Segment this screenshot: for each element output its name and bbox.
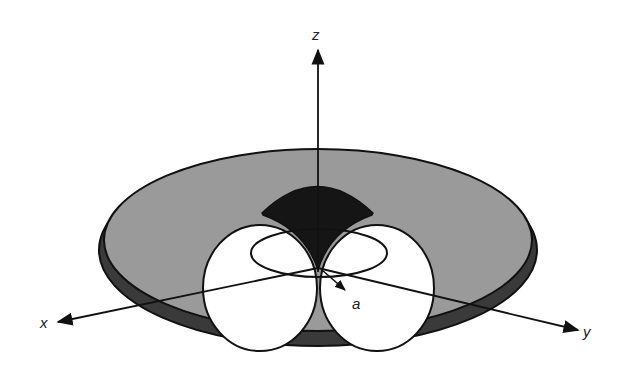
z-axis-label: z xyxy=(311,26,320,43)
right-lobe-cross-section xyxy=(320,225,434,351)
y-axis-label: y xyxy=(582,323,592,340)
radius-label: a xyxy=(352,295,360,312)
x-axis-label: x xyxy=(39,314,48,331)
torus-diagram: z x y a xyxy=(0,0,621,377)
